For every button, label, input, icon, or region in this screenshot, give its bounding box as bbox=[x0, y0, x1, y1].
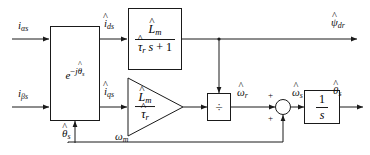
flux-lag-expression: ^Lm ^τr s + 1 bbox=[135, 23, 175, 55]
inverse-park-transform-block[interactable]: e−j^θs bbox=[50, 26, 100, 121]
flux-lag-numerator: ^Lm bbox=[146, 23, 165, 38]
gain-denominator: ^τr bbox=[138, 108, 152, 123]
divide-icon: ÷ bbox=[215, 99, 222, 115]
label-theta-s-output: ^θs bbox=[333, 85, 341, 98]
rotation-block-expression: e−j^θs bbox=[65, 66, 84, 81]
summer-plus-bottom: + bbox=[268, 114, 273, 123]
summer-plus-top: + bbox=[268, 91, 273, 100]
label-ias: iαs bbox=[18, 20, 28, 33]
label-iqs-hat: ^iqs bbox=[104, 86, 114, 99]
label-ibs: iβs bbox=[18, 88, 28, 101]
junction-flux-branch bbox=[217, 37, 220, 40]
label-psi-dr-output: ^ψdr bbox=[331, 17, 345, 30]
integrator-numerator: 1 bbox=[316, 93, 328, 107]
label-omega-s-hat: ^ωs bbox=[292, 87, 303, 100]
speed-summing-junction[interactable] bbox=[275, 99, 291, 115]
label-omega-m: ωm bbox=[115, 131, 129, 144]
lm-over-taur-gain-block[interactable]: ^Lm ^τr bbox=[128, 78, 183, 136]
flux-lag-block[interactable]: ^Lm ^τr s + 1 bbox=[128, 8, 182, 70]
gain-expression: ^Lm ^τr bbox=[135, 91, 155, 123]
label-omega-r-hat: ^ωr bbox=[237, 87, 248, 100]
label-theta-s-feedback: ^θs bbox=[62, 128, 70, 141]
integrator-expression: 1 s bbox=[316, 93, 328, 121]
rotor-flux-estimator-diagram: e−j^θs ^Lm ^τr s + 1 ^Lm ^τr ÷ bbox=[0, 0, 370, 155]
label-ids-hat: ^ids bbox=[104, 18, 114, 31]
integrator-denominator: s bbox=[317, 108, 328, 122]
division-block[interactable]: ÷ bbox=[207, 93, 231, 121]
flux-lag-denominator: ^τr s + 1 bbox=[135, 40, 175, 55]
